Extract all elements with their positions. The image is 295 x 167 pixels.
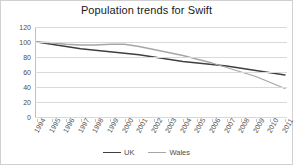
y-tick-label-80: 80 (23, 54, 31, 61)
plot-area (35, 27, 287, 117)
x-tick-label-2010: 2010 (266, 117, 280, 134)
x-tick-label-2007: 2007 (222, 117, 236, 134)
x-tick-label-1997: 1997 (76, 117, 90, 134)
x-tick-label-1998: 1998 (91, 117, 105, 134)
gridline-120 (35, 27, 287, 28)
x-tick-label-2003: 2003 (164, 117, 178, 134)
legend-label-uk: UK (124, 148, 134, 157)
y-axis-tick-labels: 020406080100120 (1, 27, 33, 117)
x-axis-tick-labels: 1994199519961997199819992000200120022003… (35, 119, 287, 149)
series-line-wales (37, 42, 285, 89)
x-tick-label-2004: 2004 (179, 117, 193, 134)
legend-label-wales: Wales (169, 148, 190, 157)
gridline-20 (35, 102, 287, 103)
gridline-80 (35, 57, 287, 58)
gridline-60 (35, 72, 287, 73)
x-tick-label-2011: 2011 (281, 117, 295, 134)
legend-swatch-uk (103, 152, 121, 153)
x-tick-label-1996: 1996 (62, 117, 76, 134)
legend-item-wales[interactable]: Wales (148, 148, 190, 157)
gridline-40 (35, 87, 287, 88)
chart-container: Population trends for Swift 020406080100… (0, 0, 293, 165)
x-tick-label-2009: 2009 (252, 117, 266, 134)
chart-legend: UK Wales (1, 148, 292, 157)
x-tick-label-2001: 2001 (135, 117, 149, 134)
series-line-uk (37, 42, 285, 75)
gridline-100 (35, 42, 287, 43)
x-tick-label-1999: 1999 (106, 117, 120, 134)
x-tick-label-2002: 2002 (149, 117, 163, 134)
x-tick-label-1994: 1994 (33, 117, 47, 134)
x-tick-label-2006: 2006 (208, 117, 222, 134)
legend-item-uk[interactable]: UK (103, 148, 134, 157)
x-tick-label-1995: 1995 (47, 117, 61, 134)
y-tick-label-20: 20 (23, 99, 31, 106)
y-tick-label-60: 60 (23, 69, 31, 76)
y-tick-label-40: 40 (23, 84, 31, 91)
legend-swatch-wales (148, 152, 166, 153)
x-tick-label-2005: 2005 (193, 117, 207, 134)
x-tick-label-2008: 2008 (237, 117, 251, 134)
y-tick-label-100: 100 (19, 39, 31, 46)
y-tick-label-120: 120 (19, 24, 31, 31)
y-tick-label-0: 0 (27, 114, 31, 121)
chart-title: Population trends for Swift (1, 4, 292, 16)
x-tick-label-2000: 2000 (120, 117, 134, 134)
